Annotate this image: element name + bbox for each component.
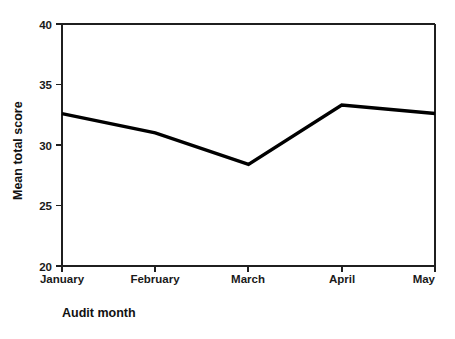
chart-figure: 40 35 30 25 20 January February March Ap…: [0, 0, 455, 339]
y-axis-title: Mean total score: [11, 101, 25, 200]
x-tick-label-march: March: [231, 273, 265, 285]
y-tick-label-40: 40: [39, 19, 52, 31]
y-tick-label-30: 30: [39, 140, 52, 152]
x-axis-title: Audit month: [62, 306, 136, 320]
x-tick-label-january: January: [40, 273, 85, 285]
x-tick-label-may: May: [413, 273, 436, 285]
line-chart-svg: 40 35 30 25 20 January February March Ap…: [0, 0, 455, 339]
y-tick-label-20: 20: [39, 261, 52, 273]
x-tick-label-april: April: [329, 273, 355, 285]
x-tick-label-february: February: [130, 273, 180, 285]
y-tick-label-25: 25: [39, 200, 52, 212]
figure-background: [0, 0, 455, 339]
y-tick-label-35: 35: [39, 79, 52, 91]
